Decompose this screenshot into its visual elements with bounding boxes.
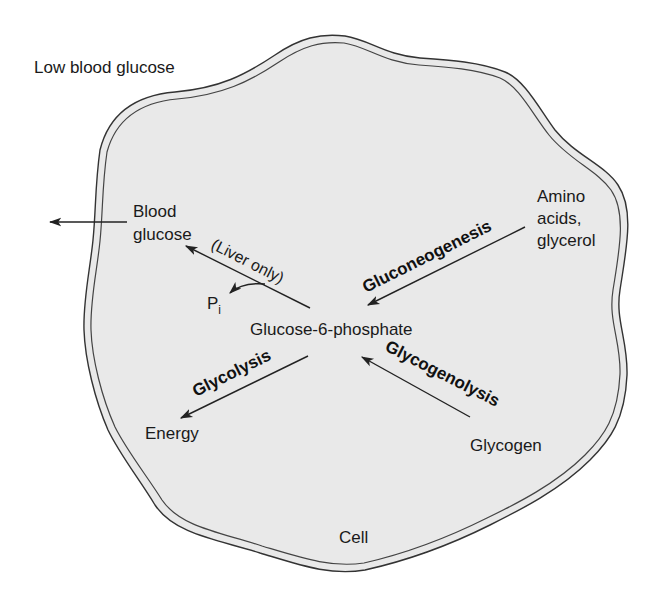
glucose-metabolism-diagram: Low blood glucose Blood glucose (Liver o… [0,0,659,602]
cell-body [84,35,628,572]
cell-membrane [84,35,628,572]
label-cell: Cell [339,528,368,547]
node-energy: Energy [145,424,199,443]
context-label-low-blood-glucose: Low blood glucose [34,58,175,77]
node-glycogen: Glycogen [470,436,542,455]
node-glucose-6-phosphate: Glucose-6-phosphate [250,320,413,339]
